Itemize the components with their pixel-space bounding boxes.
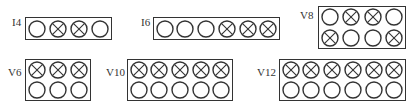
crossed-cylinder-icon: [282, 61, 300, 79]
crossed-cylinder-icon: [259, 20, 277, 38]
crossed-cylinder-icon: [150, 61, 168, 79]
crossed-cylinder-icon: [342, 8, 360, 26]
engine-label-v6: V6: [8, 66, 21, 78]
crossed-cylinder-icon: [323, 61, 341, 79]
crossed-cylinder-icon: [239, 20, 257, 38]
crossed-cylinder-icon: [49, 20, 67, 38]
cylinder-icon: [176, 20, 194, 38]
crossed-cylinder-icon: [321, 29, 339, 47]
cylinder-icon: [49, 81, 67, 99]
cylinder-icon: [28, 20, 46, 38]
cylinder-icon: [91, 20, 109, 38]
cylinder-icon: [385, 81, 403, 99]
crossed-cylinder-icon: [385, 61, 403, 79]
cylinder-icon: [192, 81, 210, 99]
cylinder-icon: [212, 81, 230, 99]
cylinder-icon: [130, 81, 148, 99]
crossed-cylinder-icon: [302, 61, 320, 79]
crossed-cylinder-icon: [49, 61, 67, 79]
engine-label-v12: V12: [257, 66, 276, 78]
crossed-cylinder-icon: [344, 61, 362, 79]
crossed-cylinder-icon: [130, 61, 148, 79]
engine-label-v8: V8: [300, 9, 313, 21]
crossed-cylinder-icon: [28, 61, 46, 79]
crossed-cylinder-icon: [385, 29, 403, 47]
cylinder-icon: [150, 81, 168, 99]
cylinder-icon: [70, 81, 88, 99]
cylinder-icon: [302, 81, 320, 99]
cylinder-icon: [365, 81, 383, 99]
cylinder-icon: [364, 29, 382, 47]
crossed-cylinder-icon: [192, 61, 210, 79]
cylinder-icon: [321, 8, 339, 26]
engine-label-i4: I4: [12, 16, 21, 28]
cylinder-icon: [28, 81, 46, 99]
cylinder-icon: [197, 20, 215, 38]
crossed-cylinder-icon: [365, 61, 383, 79]
cylinder-icon: [156, 20, 174, 38]
crossed-cylinder-icon: [171, 61, 189, 79]
cylinder-icon: [282, 81, 300, 99]
crossed-cylinder-icon: [70, 20, 88, 38]
cylinder-icon: [323, 81, 341, 99]
crossed-cylinder-icon: [70, 61, 88, 79]
cylinder-icon: [342, 29, 360, 47]
cylinder-icon: [344, 81, 362, 99]
engine-label-i6: I6: [141, 16, 150, 28]
crossed-cylinder-icon: [364, 8, 382, 26]
engine-label-v10: V10: [106, 66, 125, 78]
crossed-cylinder-icon: [212, 61, 230, 79]
cylinder-icon: [385, 8, 403, 26]
crossed-cylinder-icon: [218, 20, 236, 38]
cylinder-icon: [171, 81, 189, 99]
